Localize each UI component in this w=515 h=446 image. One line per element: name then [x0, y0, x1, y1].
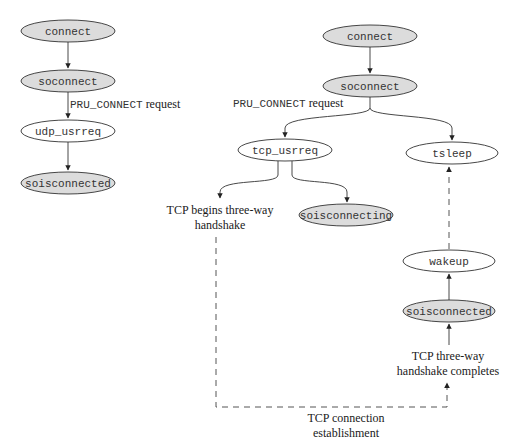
- svg-text:handshake: handshake: [195, 218, 246, 232]
- annotation-connection-establishment: TCP connection establishment: [307, 411, 384, 440]
- edge-soconnect-to-tsleep: [370, 108, 452, 140]
- svg-text:TCP three-way: TCP three-way: [412, 349, 485, 363]
- node-udp-usrreq-label: udp_usrreq: [35, 126, 101, 138]
- annotation-handshake-completes: TCP three-way handshake completes: [397, 349, 500, 378]
- node-soisconnecting-label: soisconnecting: [300, 210, 392, 222]
- node-tcp-usrreq-label: tcp_usrreq: [252, 145, 318, 157]
- node-soconnect: soconnect: [21, 70, 115, 92]
- right-flow-tcp: PRU_CONNECT request connect soconnect tc…: [167, 25, 500, 440]
- svg-text:TCP connection: TCP connection: [307, 411, 384, 425]
- left-pru-connect-label: PRU_CONNECT request: [70, 97, 181, 111]
- node-soisconnected-label: soisconnected: [25, 178, 111, 190]
- node-soconnect-label: soconnect: [38, 76, 97, 88]
- node-soconnect-label: soconnect: [340, 81, 399, 93]
- socket-connect-flow-diagram: PRU_CONNECT request connect soconnect ud…: [0, 0, 515, 446]
- node-udp-usrreq: udp_usrreq: [21, 120, 115, 142]
- node-tsleep: tsleep: [406, 142, 498, 164]
- node-soisconnected: soisconnected: [21, 172, 115, 194]
- annotation-begins-handshake: TCP begins three-way handshake: [167, 203, 274, 232]
- node-soisconnected: soisconnected: [403, 300, 495, 322]
- svg-text:TCP begins three-way: TCP begins three-way: [167, 203, 274, 217]
- node-connect: connect: [21, 20, 115, 42]
- node-tsleep-label: tsleep: [432, 148, 472, 160]
- node-connect-label: connect: [347, 31, 393, 43]
- node-connect: connect: [323, 25, 417, 47]
- svg-text:establishment: establishment: [313, 426, 380, 440]
- node-tcp-usrreq: tcp_usrreq: [238, 139, 332, 161]
- node-connect-label: connect: [45, 26, 91, 38]
- node-wakeup: wakeup: [403, 250, 495, 272]
- node-soisconnected-label: soisconnected: [406, 306, 492, 318]
- edge-tcp-usrreq-to-soisconnecting: [292, 161, 347, 202]
- svg-text:handshake completes: handshake completes: [397, 364, 500, 378]
- node-soisconnecting: soisconnecting: [299, 204, 393, 226]
- node-wakeup-label: wakeup: [429, 256, 469, 268]
- right-pru-connect-label: PRU_CONNECT request: [233, 96, 344, 110]
- left-flow-udp: PRU_CONNECT request connect soconnect ud…: [21, 20, 181, 194]
- edge-tcp-usrreq-to-begins-handshake: [220, 161, 278, 198]
- node-soconnect: soconnect: [323, 75, 417, 97]
